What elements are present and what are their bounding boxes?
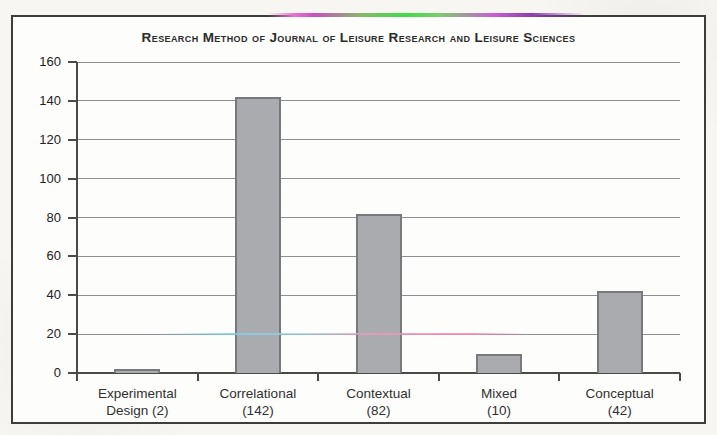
y-tick-label-160: 160 [19, 54, 61, 69]
category-label-5: Conceptual(42) [559, 385, 680, 419]
x-axis-tick-0 [76, 373, 78, 381]
gridline-100 [77, 178, 680, 179]
gridline-160 [77, 62, 680, 63]
y-tick-label-60: 60 [19, 248, 61, 263]
bar-contextual-82- [356, 214, 402, 373]
x-axis-tick-4 [558, 373, 560, 381]
chart-frame: Research Method of Journal of Leisure Re… [11, 15, 706, 424]
gridline-20-scan-tint [157, 333, 527, 335]
category-label-4: Mixed(10) [439, 385, 560, 419]
gridline-120 [77, 139, 680, 140]
category-label-line: Contextual [318, 385, 439, 402]
chromatic-scan-artifact [268, 13, 598, 17]
category-label-2: Correlational(142) [197, 385, 318, 419]
x-axis-tick-2 [317, 373, 319, 381]
x-axis-tick-3 [438, 373, 440, 381]
category-label-line: Design (2) [77, 402, 198, 419]
category-label-line: (142) [197, 402, 318, 419]
bar-mixed-10- [476, 354, 522, 373]
bar-correlational-142- [235, 97, 281, 373]
x-axis-tick-5 [679, 373, 681, 381]
category-label-line: Conceptual [559, 385, 680, 402]
gridline-140 [77, 100, 680, 101]
y-tick-label-140: 140 [19, 93, 61, 108]
category-label-line: (82) [318, 402, 439, 419]
category-label-line: (42) [559, 402, 680, 419]
category-label-line: (10) [439, 402, 560, 419]
y-tick-label-0: 0 [19, 365, 61, 380]
y-axis-line [76, 62, 78, 373]
bar-experimental-design-2- [114, 369, 160, 373]
scanned-page-background: Research Method of Journal of Leisure Re… [0, 0, 717, 435]
y-tick-label-100: 100 [19, 171, 61, 186]
y-tick-label-40: 40 [19, 287, 61, 302]
y-tick-label-120: 120 [19, 132, 61, 147]
category-label-1: ExperimentalDesign (2) [77, 385, 198, 419]
category-label-3: Contextual(82) [318, 385, 439, 419]
y-tick-label-80: 80 [19, 210, 61, 225]
category-label-line: Correlational [197, 385, 318, 402]
y-tick-label-20: 20 [19, 326, 61, 341]
plot-area: 020406080100120140160ExperimentalDesign … [77, 62, 680, 373]
x-axis-tick-1 [197, 373, 199, 381]
category-label-line: Mixed [439, 385, 560, 402]
category-label-line: Experimental [77, 385, 198, 402]
chart-title: Research Method of Journal of Leisure Re… [13, 30, 704, 45]
bar-conceptual-42- [597, 291, 643, 373]
